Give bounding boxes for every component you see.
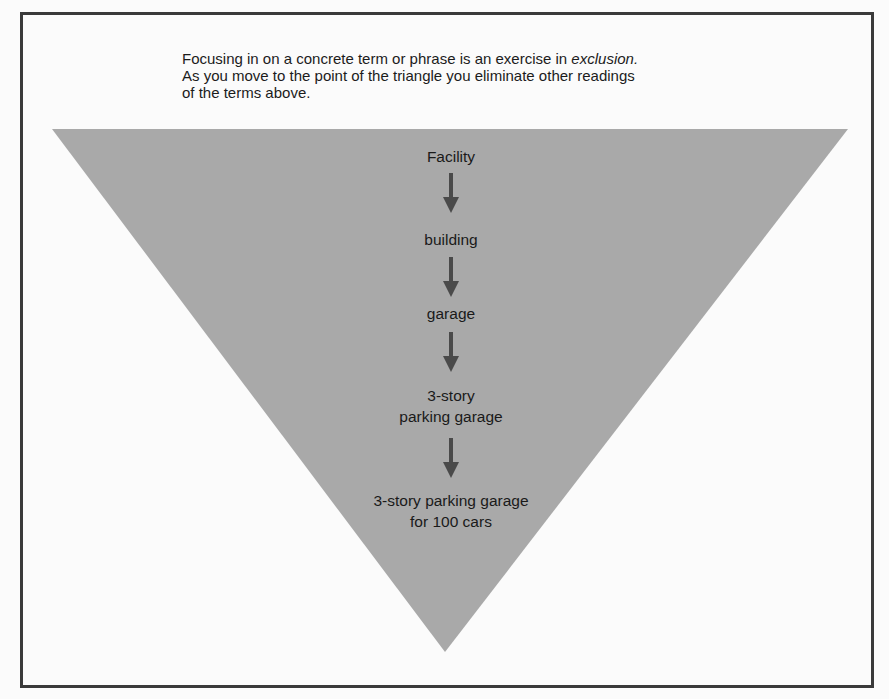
level-label-line-2: parking garage <box>301 406 601 427</box>
level-3-story-parking-garage-100-cars: 3-story parking garage for 100 cars <box>301 490 601 532</box>
level-facility: Facility <box>301 146 601 167</box>
level-label: building <box>301 229 601 250</box>
level-label: garage <box>301 303 601 324</box>
level-building: building <box>301 229 601 250</box>
level-label-line-2: for 100 cars <box>301 511 601 532</box>
level-3-story-parking-garage: 3-story parking garage <box>301 385 601 427</box>
inverted-triangle <box>0 0 889 699</box>
level-label: 3-story <box>301 385 601 406</box>
level-label: Facility <box>301 146 601 167</box>
level-garage: garage <box>301 303 601 324</box>
level-label: 3-story parking garage <box>301 490 601 511</box>
